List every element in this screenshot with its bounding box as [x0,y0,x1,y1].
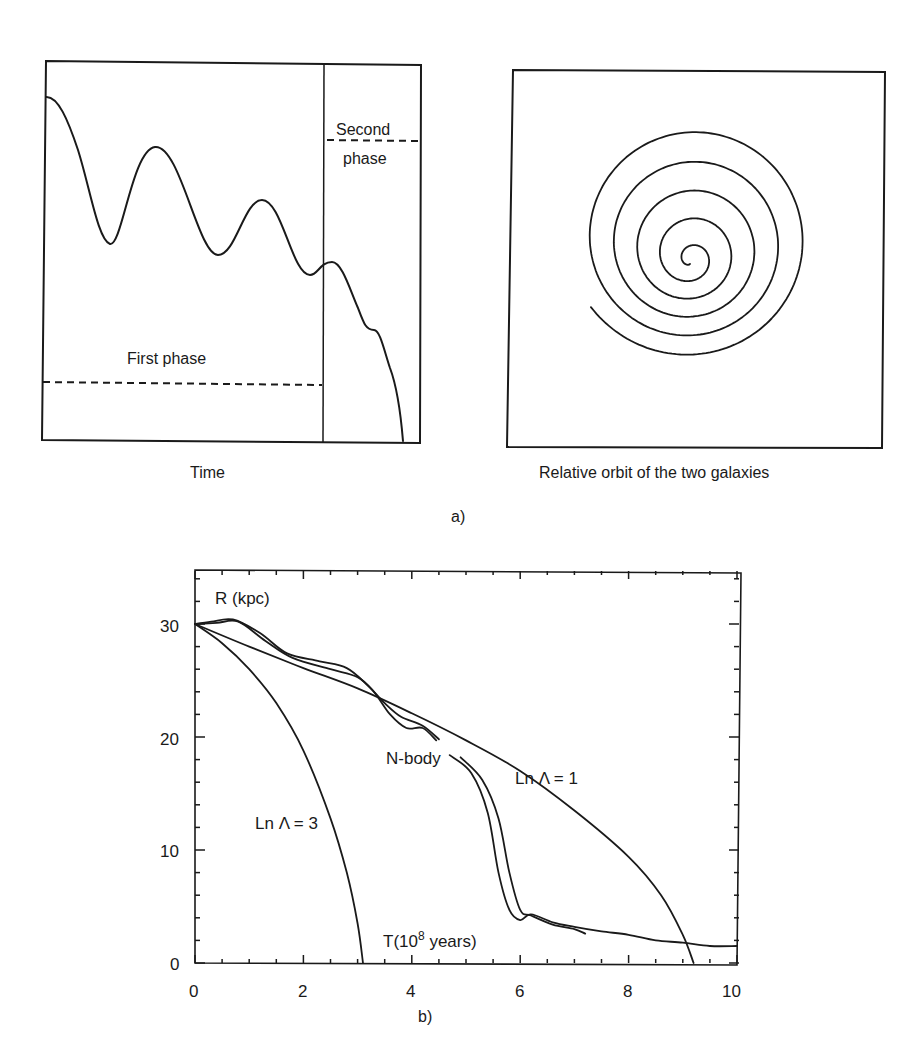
series-line-n-body-run-1- [195,619,439,739]
plot-frame [507,70,885,448]
xtick-label: 8 [623,982,632,1001]
first-phase-label: First phase [127,350,206,367]
xtick-label: 2 [298,982,307,1001]
plot-frame [42,61,421,443]
phase-divider [323,64,324,443]
series-line-ln-3 [195,624,363,963]
ytick-label: 30 [160,617,179,636]
xtick-label: 0 [189,982,198,1001]
first-phase-line [43,382,322,385]
figure: First phase Second phase Time Relative o… [0,0,912,1050]
second-phase-label-2: phase [343,150,387,167]
y-tick-labels: 30 20 10 0 [160,617,179,974]
xtick-label: 6 [515,982,524,1001]
nbody-label: N-body [386,749,441,768]
panel-b-plot: 30 20 10 0 0 2 4 6 8 10 R (kpc) N-body L… [160,570,741,1001]
ytick-label: 0 [170,955,179,974]
orbit-caption: Relative orbit of the two galaxies [539,464,769,481]
xtick-label: 4 [406,982,415,1001]
ytick-label: 20 [160,730,179,749]
panel-a-left-plot: First phase Second phase Time [42,61,421,481]
x-tick-labels: 0 2 4 6 8 10 [189,982,741,1001]
data-curves [195,619,737,963]
panel-b-label: b) [418,1008,432,1025]
second-phase-line [327,140,420,141]
series-line-ln-1 [195,624,694,963]
lnlambda3-label: Ln Λ = 3 [255,814,318,833]
x-axis-label: T(108 years) [383,929,477,951]
lnlambda1-label: Ln Λ = 1 [515,769,578,788]
y-axis-label: R (kpc) [215,589,270,608]
time-axis-label: Time [190,464,225,481]
second-phase-label-1: Second [336,121,390,138]
separation-curve [46,97,403,441]
panel-a-right-plot: Relative orbit of the two galaxies [507,70,885,481]
plot-frame [195,570,741,965]
orbit-spiral [590,132,803,354]
ytick-label: 10 [160,842,179,861]
panel-a-label: a) [451,508,465,525]
series-line-n-body-run-2- [450,755,737,946]
xtick-label: 10 [722,982,741,1001]
